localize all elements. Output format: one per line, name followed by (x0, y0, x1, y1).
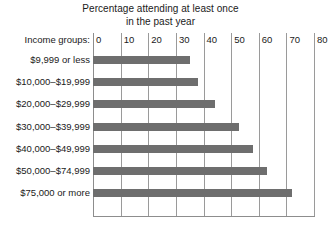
gridline-80 (314, 33, 315, 217)
bar-2 (93, 100, 215, 108)
category-label-6: $75,000 or more (20, 187, 90, 198)
x-tick-label-0: 0 (96, 34, 101, 45)
x-tick-label-20: 20 (151, 34, 162, 45)
x-tick-label-50: 50 (234, 34, 245, 45)
category-label-1: $10,000–$19,999 (16, 76, 90, 87)
bar-3 (93, 123, 239, 131)
bar-1 (93, 78, 198, 86)
category-label-3: $30,000–$39,999 (16, 121, 90, 132)
category-label-2: $20,000–$29,999 (16, 98, 90, 109)
x-tick-label-30: 30 (179, 34, 190, 45)
axis-baseline (93, 216, 315, 217)
chart-title: Percentage attending at least once in th… (0, 3, 321, 28)
x-tick-label-10: 10 (124, 34, 135, 45)
chart-title-line-2: in the past year (0, 16, 321, 29)
category-label-0: $9,999 or less (30, 54, 90, 65)
bar-5 (93, 167, 267, 175)
bar-4 (93, 145, 253, 153)
x-tick-label-70: 70 (289, 34, 300, 45)
chart-title-line-1: Percentage attending at least once (0, 3, 321, 16)
category-label-4: $40,000–$49,999 (16, 143, 90, 154)
bar-6 (93, 189, 292, 197)
x-tick-label-80: 80 (317, 34, 328, 45)
category-axis-label: Income groups: (25, 34, 90, 45)
bar-0 (93, 56, 190, 64)
category-label-5: $50,000–$74,999 (16, 165, 90, 176)
x-tick-label-40: 40 (207, 34, 218, 45)
x-tick-label-60: 60 (262, 34, 273, 45)
